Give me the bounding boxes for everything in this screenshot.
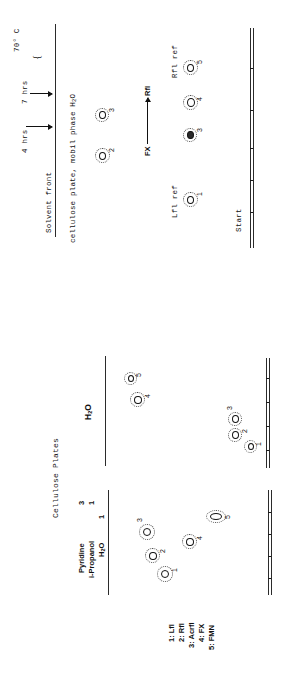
origin-tick [268,556,271,557]
origin-tick [266,426,269,427]
reference-left-label: Lfl ref [172,185,180,218]
system-a-front-line [108,490,109,595]
spot-a-4-label: 4 [196,536,203,540]
spot-a-3-label: 3 [136,518,143,522]
plate-description-label: cellulose plate, mobil phase H2O [70,94,78,243]
spot-top-3-label: 3 [108,108,115,112]
legend-item-1: 1: Lfl [168,624,176,642]
legend-item-3: 3: Acrfl [188,622,196,648]
spot-a-5-label: 5 [224,515,231,519]
origin-tick [266,450,269,451]
spot-top-4-label: 4 [196,97,203,101]
legend-item-2: 2: Rfl [178,623,186,642]
time-label-7hrs: 7 hrs [22,80,30,104]
system-a-solvent-pyridine: Pyridine [78,543,86,573]
system-b-start-line-inner [269,358,270,468]
spot-b-3-label: 3 [226,406,233,410]
scanned-tlc-figure: 70° C { 7 hrs 4 hrs Solvent front cellul… [0,0,292,673]
bottom-panel-title: Cellulose Plates [52,438,60,518]
axis-label-fx: FX [144,146,152,156]
arrow-4hrs [26,126,52,127]
spot-b-5-label: 5 [135,373,142,377]
solvent-front-label: Solvent front [46,172,54,233]
legend-item-4: 4: FX [198,624,206,642]
temperature-label: 70° C [14,28,22,52]
solvent-front-line [55,24,56,237]
spot-top-3b-label: 3 [196,128,203,132]
system-a-start-line-outer [268,490,269,595]
legend-item-5: 5: FMN [208,625,216,650]
start-line-inner [253,28,254,248]
system-a-solvent-propanol: i-Propanol [88,541,96,578]
system-a-parts-water: 1 [98,515,106,519]
origin-tick [250,68,253,69]
spot-b-2-label: 2 [241,429,248,433]
spot-top-2-label: 2 [108,148,115,152]
arrow-7hrs [30,93,52,94]
origin-tick [268,578,271,579]
migration-arrow [147,98,148,144]
origin-tick [266,402,269,403]
system-b-front-line [105,356,106,466]
origin-tick [250,180,253,181]
origin-tick [250,212,253,213]
origin-tick [268,512,271,513]
system-a-solvent-water: H2O [98,543,106,557]
origin-tick [266,378,269,379]
system-a-start-line-inner [271,490,272,595]
reference-right-label: Rfl ref [172,45,180,78]
start-label: Start [236,208,244,232]
system-a-parts-propanol: 1 [88,501,96,505]
origin-tick [268,534,271,535]
start-line-outer [250,28,251,248]
spot-a-1-label: 1 [171,568,178,572]
system-a-parts-pyridine: 3 [78,501,86,505]
spot-top-1-label: 1 [196,192,203,196]
temperature-brace: { [30,55,42,60]
spot-b-4-label: 4 [144,394,151,398]
origin-tick [250,110,253,111]
system-b-start-line-outer [266,358,267,468]
spot-a-2-label: 2 [159,549,166,553]
spot-b-1-label: 1 [255,442,262,446]
time-label-4hrs: 4 hrs [22,129,30,153]
spot-top-5-label: 5 [196,60,203,64]
origin-tick [250,148,253,149]
system-b-solvent-water: H2O [84,404,93,420]
axis-label-rfl: Rfl [144,86,152,96]
